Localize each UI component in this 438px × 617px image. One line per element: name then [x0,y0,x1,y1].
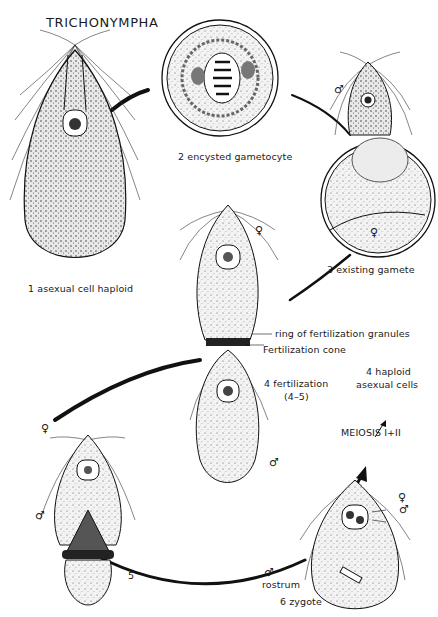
male-symbol-stage-5: ♂ [35,510,45,521]
stage-3-label: 3 existing gamete [327,265,415,276]
male-symbol-stage-3: ♂ [334,84,344,95]
stage-2-cyst [162,20,278,136]
stage-6-label: 6 zygote [280,597,322,608]
stage-5-cell-pair [40,435,135,605]
stage-1-label: 1 asexual cell haploid [28,284,133,295]
female-symbol-stage-4: ♀ [255,225,263,236]
female-symbol-stage-5: ♀ [41,423,49,434]
haploid-cells-label-1: 4 haploid [366,367,411,378]
stage-2-label: 2 encysted gametocyte [178,152,292,163]
stage-5-label: 5 [128,571,134,582]
diagram-title: TRICHONYMPHA [46,16,158,31]
stage-4-label: 4 fertilization [264,379,328,390]
male-symbol-rostrum: ♂ [264,567,274,578]
ring-granules-label: ring of fertilization granules [275,329,410,340]
meiosis-label: MEIOSIS I+II [341,428,401,439]
stage-1-cell [10,30,140,258]
rostrum-label: rostrum [262,580,300,591]
haploid-cells-label-2: asexual cells [356,380,418,391]
male-symbol-stage-4: ♂ [269,457,279,468]
life-cycle-diagram [0,0,438,617]
female-symbol-stage-6: ♀ [398,492,406,503]
stage-6-zygote [300,480,410,609]
stage-4-sublabel: (4–5) [284,392,309,403]
male-symbol-stage-6: ♂ [399,504,409,515]
female-symbol-stage-3: ♀ [370,227,378,238]
fertilization-cone-label: Fertilization cone [263,345,346,356]
